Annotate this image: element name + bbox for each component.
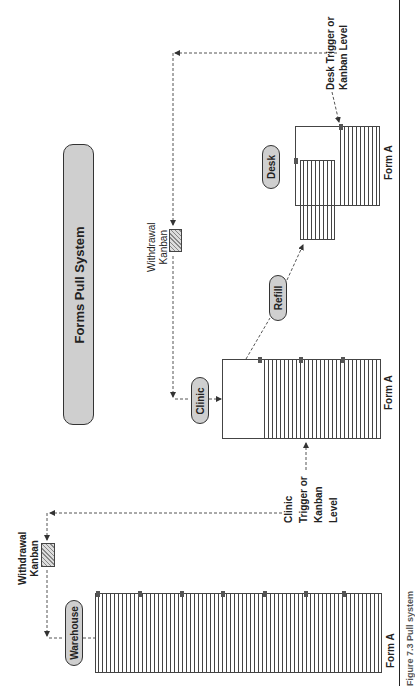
clinic-node: Clinic: [191, 377, 209, 424]
form-a-label: Form A: [383, 145, 394, 180]
kanban-marker: [221, 591, 225, 597]
clinic-stack: [222, 359, 381, 439]
kanban-marker: [339, 124, 343, 130]
withdrawal-kanban-label: Withdrawal Kanban: [17, 532, 41, 585]
desk-outer-stack: [295, 126, 380, 206]
desk-trigger-label: Desk Trigger or Kanban Level: [324, 17, 350, 90]
figure-caption: Figure 7.3 Pull system: [405, 591, 415, 686]
kanban-marker: [299, 357, 303, 363]
form-a-label: Form A: [383, 375, 394, 410]
warehouse-node: Warehouse: [65, 600, 83, 666]
title-text: Forms Pull System: [71, 226, 86, 343]
warehouse-stack: [95, 593, 382, 673]
form-a-label: Form A: [385, 633, 396, 668]
withdrawal-kanban-card: [41, 543, 55, 567]
kanban-marker: [258, 357, 262, 363]
desk-node: Desk: [262, 145, 280, 189]
kanban-marker: [180, 591, 184, 597]
kanban-marker: [96, 591, 100, 597]
kanban-marker: [304, 591, 308, 597]
kanban-marker: [263, 591, 267, 597]
kanban-marker: [138, 591, 142, 597]
title-bar: Forms Pull System: [63, 144, 94, 425]
kanban-marker: [341, 357, 345, 363]
kanban-marker: [294, 158, 298, 164]
refill-node: Refill: [269, 275, 287, 321]
withdrawal-kanban-label: Withdrawal Kanban: [146, 223, 170, 272]
kanban-marker: [342, 591, 346, 597]
clinic-trigger-label: Clinic Trigger or Kanban Level: [281, 476, 341, 523]
withdrawal-kanban-card: [169, 229, 182, 252]
caption-divider: [399, 0, 400, 686]
